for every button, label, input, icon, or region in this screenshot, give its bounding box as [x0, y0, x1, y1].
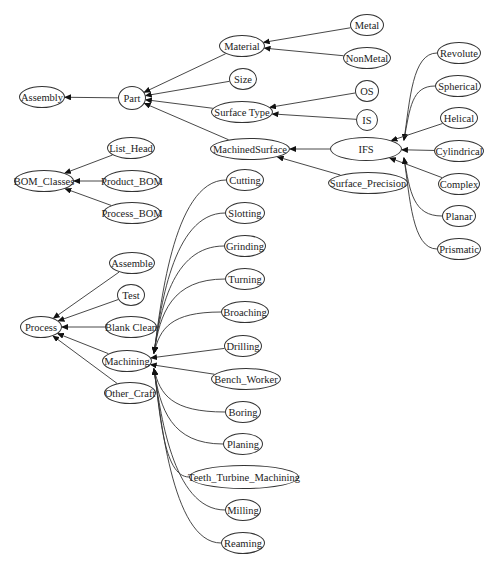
node-spherical[interactable]: Spherical	[435, 75, 481, 97]
edge-reaming-to-machining	[154, 369, 221, 543]
edge-spherical-to-ifs	[404, 86, 435, 140]
node-prismatic[interactable]: Prismatic	[437, 238, 481, 260]
edge-surfacetype-to-part	[146, 100, 213, 109]
node-part[interactable]: Part	[118, 86, 146, 110]
node-teeth-turbine-machining[interactable]: Teeth_Turbine_Machining	[189, 465, 299, 489]
node-assemble[interactable]: Assemble	[109, 252, 155, 274]
edge-drilling-to-machining	[151, 348, 224, 358]
node-product-bom[interactable]: Product_BOM	[103, 170, 161, 192]
node-machinedsurface[interactable]: MachinedSurface	[210, 138, 290, 160]
node-process-bom[interactable]: Process_BOM	[103, 202, 161, 224]
edge-surfaceprecision-to-machinedsurface	[278, 157, 341, 175]
node-drilling[interactable]: Drilling	[224, 335, 262, 357]
node-list-head[interactable]: List_Head	[107, 137, 155, 159]
edge-helical-to-ifs	[391, 123, 442, 140]
node-broaching[interactable]: Broaching	[221, 301, 269, 323]
node-machining[interactable]: Machining	[102, 350, 152, 372]
node-other-craft[interactable]: Other_Craft	[104, 382, 156, 404]
node-boring[interactable]: Boring	[225, 401, 261, 423]
node-reaming[interactable]: Reaming	[221, 532, 265, 554]
node-ifs[interactable]: IFS	[330, 137, 402, 161]
node-planing[interactable]: Planing	[223, 433, 263, 455]
edge-part-to-assembly	[65, 97, 118, 98]
edge-os-to-surfacetype	[270, 93, 355, 107]
node-slotting[interactable]: Slotting	[225, 202, 265, 224]
edge-nonmetal-to-material	[265, 48, 344, 56]
edge-broaching-to-machining	[154, 312, 221, 353]
edge-cylindrical-to-ifs	[402, 150, 434, 151]
edge-machining-to-process	[58, 334, 109, 354]
node-revolute[interactable]: Revolute	[437, 42, 481, 64]
node-metal[interactable]: Metal	[350, 14, 384, 36]
edge-process_bom-to-bom_classes	[65, 189, 111, 206]
edge-cutting-to-machining	[154, 180, 226, 353]
node-cylindrical[interactable]: Cylindrical	[434, 140, 484, 162]
node-surfacetype[interactable]: Surface Type	[211, 101, 273, 123]
node-turning[interactable]: Turning	[225, 268, 265, 290]
node-grinding[interactable]: Grinding	[224, 235, 266, 257]
node-bench-worker[interactable]: Bench_Worker	[211, 368, 281, 390]
edge-metal-to-material	[264, 28, 351, 43]
edge-material-to-part	[144, 54, 225, 92]
edge-prismatic-to-ifs	[404, 158, 437, 249]
edge-is-to-surfacetype	[273, 114, 357, 119]
node-bom-classes[interactable]: BOM_Classes	[14, 170, 74, 192]
edge-size-to-part	[146, 81, 230, 95]
node-milling[interactable]: Milling	[225, 499, 261, 521]
node-helical[interactable]: Helical	[440, 107, 478, 129]
node-complex[interactable]: Complex	[438, 173, 480, 195]
node-planar[interactable]: Planar	[442, 205, 476, 227]
node-nonmetal[interactable]: NonMetal	[343, 47, 391, 69]
node-cutting[interactable]: Cutting	[226, 169, 264, 191]
edge-grinding-to-machining	[154, 246, 224, 353]
node-test[interactable]: Test	[117, 284, 145, 306]
edge-turning-to-machining	[154, 279, 225, 353]
edge-planar-to-ifs	[404, 158, 442, 216]
edge-bench_worker-to-machining	[151, 365, 215, 375]
node-size[interactable]: Size	[229, 68, 257, 90]
node-process[interactable]: Process	[20, 316, 62, 338]
node-assembly[interactable]: Assembly	[19, 86, 65, 108]
node-os[interactable]: OS	[355, 80, 379, 102]
edge-test-to-process	[58, 300, 118, 321]
node-is[interactable]: IS	[356, 109, 378, 131]
edge-list_head-to-bom_classes	[65, 155, 113, 173]
graph-canvas: AssemblyPartMaterialSizeSurface TypeMach…	[0, 0, 496, 568]
node-blankclean[interactable]: Blank Clean	[105, 316, 157, 338]
node-material[interactable]: Material	[219, 35, 265, 57]
node-surfaceprecision[interactable]: Surface_Precision	[328, 172, 408, 194]
